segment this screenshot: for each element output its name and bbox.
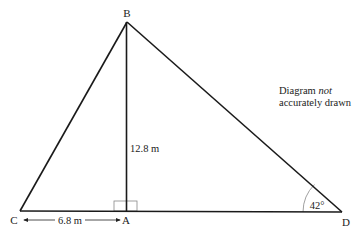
vertex-label-c: C: [10, 214, 17, 226]
note-line-1: Diagram not: [279, 85, 363, 97]
angle-label-d: 42°: [310, 200, 325, 211]
vertex-label-d: D: [342, 216, 350, 228]
note-line-2: accurately drawn: [279, 97, 363, 109]
triangle-diagram: B C A D 12.8 m 6.8 m 42°: [0, 0, 364, 235]
side-cd: [20, 211, 342, 212]
side-cb: [20, 22, 127, 211]
side-bd: [127, 22, 342, 212]
note-prefix: Diagram: [279, 85, 316, 96]
base-label: 6.8 m: [58, 215, 82, 226]
height-label: 12.8 m: [130, 143, 159, 154]
vertex-label-a: A: [122, 214, 130, 226]
note-emphasis: not: [318, 85, 331, 96]
diagram-note: Diagram not accurately drawn: [279, 85, 363, 109]
vertex-label-b: B: [123, 7, 130, 19]
right-angle-marker: [114, 201, 137, 211]
